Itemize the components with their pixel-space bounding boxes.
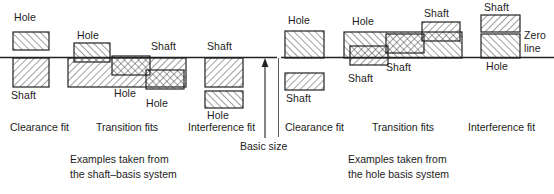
left-clearance-shaft-box [13, 58, 49, 87]
right-clearance-shaft-box [285, 73, 324, 90]
zero-line-label-bottom: line [524, 43, 541, 54]
caption-right-line1: Examples taken from [348, 153, 447, 166]
right-clearance-hole-box [285, 31, 324, 58]
label-left-clearance-shaft: Shaft [11, 90, 36, 101]
fit-label-left-transition: Transition fits [96, 121, 158, 133]
label-left-transition-shaft: Shaft [151, 41, 176, 52]
left-clearance-hole-box [13, 32, 49, 50]
label-right-transition-shaft-3: Shaft [424, 8, 449, 19]
label-left-interference-shaft: Shaft [207, 41, 232, 52]
label-right-clearance-hole: Hole [288, 15, 310, 26]
fit-label-right-clearance: Clearance fit [285, 121, 344, 133]
left-interference-shaft-box [205, 58, 243, 87]
left-interference-hole-box [205, 91, 243, 108]
label-right-interference-shaft: Shaft [484, 2, 509, 13]
right-interference-hole-box [481, 34, 520, 58]
left-transition-hole-box-1 [74, 43, 110, 62]
right-interference-shaft-box [481, 15, 520, 32]
label-left-clearance-hole: Hole [14, 12, 36, 23]
fit-label-right-transition: Transition fits [372, 121, 434, 133]
right-transition-shaft-box-1 [350, 46, 388, 65]
basic-size-arrow [262, 58, 269, 138]
label-right-transition-hole: Hole [352, 16, 374, 27]
label-left-transition-hole-2: Hole [114, 88, 136, 99]
fit-label-left-clearance: Clearance fit [10, 121, 69, 133]
caption-right-line2: the hole basis system [348, 168, 449, 181]
label-left-interference-hole: Hole [207, 110, 229, 121]
label-left-transition-hole-1: Hole [77, 30, 99, 41]
left-transition-hole-box-3 [146, 70, 184, 89]
fit-label-left-interference: Interference fit [188, 121, 255, 133]
label-left-transition-hole-3: Hole [146, 98, 168, 109]
right-transition-shaft-box-3 [422, 22, 460, 41]
caption-left-line2: the shaft–basis system [70, 168, 177, 181]
label-right-transition-shaft-2: Shaft [386, 62, 411, 73]
left-transition-hole-box-2 [112, 56, 150, 75]
label-right-interference-hole: Hole [486, 61, 508, 72]
label-right-transition-shaft-1: Shaft [348, 73, 373, 84]
basic-size-label: Basic size [240, 140, 287, 152]
fit-label-right-interference: Interference fit [468, 121, 535, 133]
caption-left-line1: Examples taken from [70, 153, 169, 166]
zero-line-label-top: Zero [524, 30, 546, 41]
right-transition-shaft-box-2 [386, 34, 424, 53]
label-right-clearance-shaft: Shaft [286, 93, 311, 104]
